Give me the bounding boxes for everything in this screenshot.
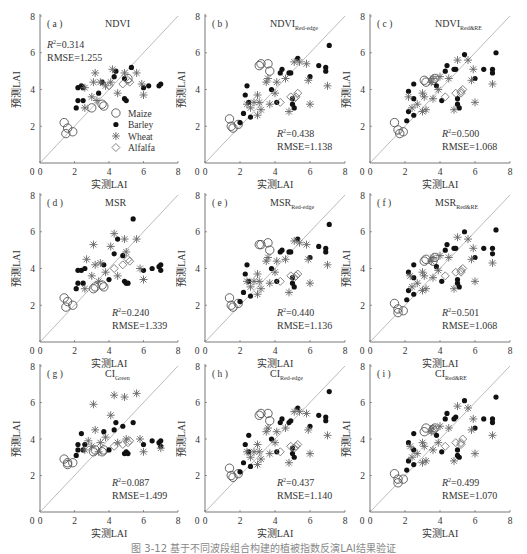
barley-marker [158,81,163,86]
barley-marker [75,98,80,103]
x-tick-label: 4 [107,167,112,177]
x-tick-label: 2 [72,516,77,526]
wheat-marker [122,248,130,256]
wheat-marker [419,108,427,116]
wheat-marker [88,93,96,101]
wheat-marker [243,277,251,285]
y-tick-label: 2 [195,301,200,311]
barley-marker [243,271,248,276]
wheat-marker [110,391,118,399]
scatter-panel-e: 0246802468实测LAI预测LAI( e )MSRRed-edgeR2=0… [175,191,348,370]
y-axis-label: 预测LAI [175,421,187,458]
y-tick-label: 0 [195,346,200,356]
wheat-marker [89,241,97,249]
data-points [60,216,163,311]
panel-title: NDVIRed-edge [270,18,318,31]
y-tick-label: 0 [360,346,365,356]
x-tick-label: 6 [308,167,313,177]
x-tick-label: 6 [141,167,146,177]
barley-marker [327,43,332,48]
y-tick-label: 6 [360,48,365,58]
barley-marker [74,453,79,458]
y-tick-label: 0 [30,167,35,177]
y-tick-label: 6 [30,398,35,408]
barley-marker [439,449,444,454]
wheat-marker [266,100,274,108]
barley-marker [79,431,84,436]
barley-marker [453,415,458,420]
barley-marker [411,113,416,118]
wheat-marker [102,268,110,276]
figure-grid: 0246802468实测LAI预测LAI( a )NDVIR2=0.314RMS… [0,0,527,554]
wheat-marker [247,283,255,291]
wheat-marker [112,132,120,140]
wheat-marker [406,272,414,280]
barley-marker [411,431,416,436]
y-tick-label: 0 [195,516,200,526]
wheat-marker [303,60,311,68]
y-tick-label: 0 [30,516,35,526]
x-tick-label: 0 [368,346,373,356]
barley-marker [150,438,155,443]
x-tick-label: 0 [38,167,43,177]
scatter-panel-d: 0246802468实测LAI预测LAI( d )MSRR2=0.240RMSE… [10,191,181,370]
panel-letter: ( g ) [47,369,63,380]
barley-marker [129,65,134,70]
wheat-marker [114,89,122,97]
barley-marker [112,251,117,256]
barley-marker [75,442,80,447]
x-tick-label: 2 [72,346,77,356]
barley-marker [125,451,130,456]
wheat-marker [489,259,497,267]
wheat-marker [304,426,312,434]
wheat-marker [254,270,262,278]
wheat-marker [257,106,265,114]
barley-marker [146,83,151,88]
wheat-marker [247,453,255,461]
barley-marker [316,413,321,418]
barley-marker [241,460,246,465]
barley-marker [453,67,458,72]
wheat-marker [469,415,477,423]
barley-marker [323,418,328,423]
legend: MaizeBarleyWheatAlfalfa [112,109,156,154]
x-tick-label: 4 [273,346,278,356]
y-tick-label: 2 [30,301,35,311]
y-tick-label: 4 [195,435,200,445]
x-tick-label: 0 [368,516,373,526]
maize-marker [100,102,108,110]
x-tick-label: 4 [273,516,278,526]
y-tick-label: 4 [360,435,365,445]
wheat-marker [96,259,104,267]
barley-marker [112,427,117,432]
wheat-marker [324,261,332,269]
y-tick-label: 4 [360,264,365,274]
barley-marker [237,299,242,304]
x-tick-label: 8 [176,167,181,177]
r-squared-label: R2=0.087 [111,477,149,488]
y-tick-label: 0 [30,346,35,356]
barley-marker [444,411,449,416]
wheat-marker [93,97,101,105]
barley-marker [75,447,80,452]
barley-marker [481,67,486,72]
wheat-marker [489,431,497,439]
wheat-marker [273,78,281,86]
y-axis-label: 预测LAI [10,421,22,458]
panel-title: CIGreen [105,368,130,381]
wheat-marker [255,448,263,456]
wheat-marker [254,91,262,99]
wheat-marker [257,455,265,463]
barley-marker [96,91,101,96]
panel-title: MSRRed-edge [270,197,314,210]
barley-marker [288,418,293,423]
barley-marker [288,70,293,75]
wheat-marker [434,439,442,447]
wheat-marker [91,426,99,434]
legend-label: Maize [128,109,152,119]
y-tick-label: 4 [30,435,35,445]
wheat-marker [266,450,274,458]
barley-marker [292,105,297,110]
x-tick-label: 8 [343,167,348,177]
wheat-marker [419,459,427,467]
